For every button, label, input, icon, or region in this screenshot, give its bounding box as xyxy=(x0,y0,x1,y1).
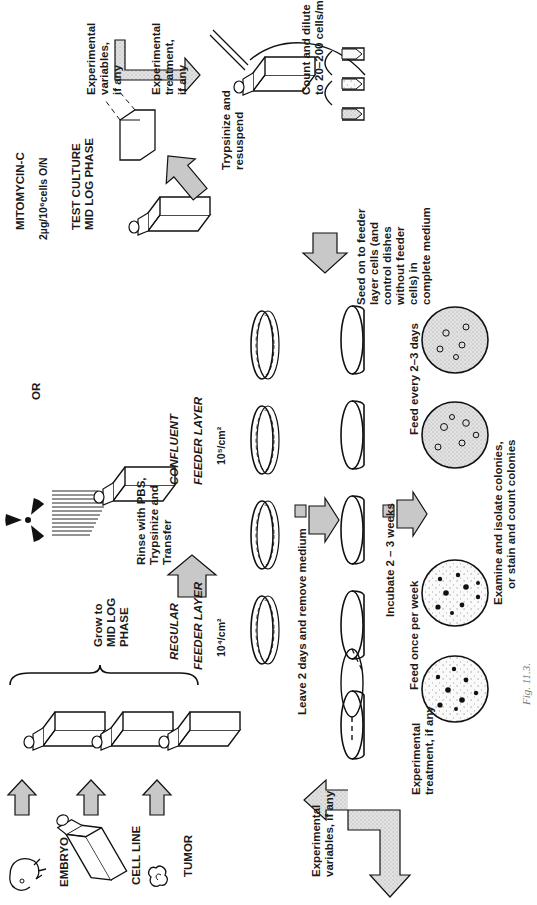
label-count-dilute: Count and dilute to 20–200 cells/ml xyxy=(300,0,326,95)
leave-indicator xyxy=(295,505,306,517)
label-incubate: Incubate 2 – 3 weeks xyxy=(384,503,397,617)
colony-plates xyxy=(422,307,488,722)
label-examine: Examine and isolate colonies, or stain a… xyxy=(492,440,518,606)
radiation-symbol-icon xyxy=(5,497,44,542)
label-test-culture: TEST CULTURE MID LOG PHASE xyxy=(70,138,96,230)
label-confluent-feeder: FEEDER LAYER xyxy=(192,397,205,485)
tumor-icon xyxy=(149,866,168,886)
label-exp-treatment-right: Experimental treatment, if any xyxy=(150,23,189,95)
label-trypsinize: Trypsinize and resuspend xyxy=(220,90,246,170)
seeded-dishes-row xyxy=(341,306,364,759)
label-feed-weekly: Feed once per week xyxy=(408,581,421,690)
dilution-tubes xyxy=(325,48,364,120)
label-leave: Leave 2 days and remove medium xyxy=(296,528,309,715)
pipette xyxy=(210,35,245,70)
label-exp-treatment-left: Experimental treatment, if any xyxy=(410,706,436,795)
label-tumor: TUMOR xyxy=(182,835,195,877)
label-grow: Grow to MID LOG PHASE xyxy=(92,598,131,647)
diagram-graphics xyxy=(0,0,537,905)
label-or: OR xyxy=(30,383,43,400)
label-seed: Seed on to feeder layer cells (and contr… xyxy=(355,207,433,305)
incubate-arrow xyxy=(397,492,427,536)
label-feed-2-3: Feed every 2–3 days xyxy=(408,323,421,435)
label-rinse: Rinse with PBS, Trypsinize and Transfer xyxy=(135,477,174,565)
label-cell-line: CELL LINE xyxy=(130,826,143,885)
label-exp-variables-left: Experimental variables, if any xyxy=(310,791,336,877)
label-regular-feeder: FEEDER LAYER xyxy=(192,582,205,670)
label-regular-density: 10⁴/cm² xyxy=(215,619,228,657)
grouping-brace xyxy=(10,665,198,685)
label-embryo: EMBRYO xyxy=(58,837,71,887)
figure-caption: Fig. 11.3. xyxy=(520,663,532,705)
label-exp-variables-right: Experimental variables, if any xyxy=(85,23,124,95)
label-confluent: CONFLUENT xyxy=(168,414,181,485)
leave-arrow xyxy=(309,498,339,542)
seed-arrow xyxy=(303,233,347,273)
source-arrows xyxy=(8,780,171,815)
feeder-layer-cloning-diagram: EMBRYO CELL LINE TUMOR Grow to MID LOG P… xyxy=(0,0,537,905)
label-mitomycin: MITOMYCIN-C xyxy=(14,152,27,230)
feeder-dishes-row xyxy=(251,311,279,664)
test-culture-flask xyxy=(129,197,210,235)
embryo-icon xyxy=(10,859,46,891)
experimental-arrow-left xyxy=(348,810,410,897)
label-regular: REGULAR xyxy=(168,603,181,660)
label-mitomycin-dose: 2µg/10⁶cells O/N xyxy=(37,157,50,240)
experimental-dashed-flask xyxy=(105,90,155,160)
label-confluent-density: 10⁵/cm² xyxy=(215,427,228,465)
